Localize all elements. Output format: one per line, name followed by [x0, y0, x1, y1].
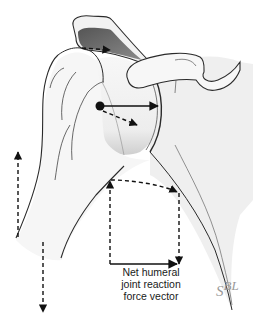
- illustrator-signature: SBL: [216, 278, 239, 300]
- caption-line-2: joint reaction: [111, 278, 191, 290]
- caption-line-3: force vector: [111, 290, 191, 302]
- signature-base: S: [216, 283, 224, 299]
- net-force-caption: Net humeral joint reaction force vector: [111, 266, 191, 302]
- caption-line-1: Net humeral: [111, 266, 191, 278]
- signature-superscript: BL: [224, 278, 239, 293]
